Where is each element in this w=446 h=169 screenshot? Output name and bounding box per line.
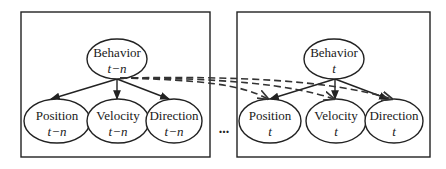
node-position-t-minus-n: Position t−n (24, 99, 90, 143)
edge-behavior-direction-right (335, 79, 388, 99)
dynamic-bayesian-network-diagram: Behavior t−n Position t−n Velocity t−n D… (0, 0, 446, 169)
node-behavior-t-minus-n: Behavior t−n (87, 39, 147, 79)
edge-behavior-direction-left (117, 79, 169, 99)
node-label: Behavior (310, 45, 358, 60)
node-time: t (392, 124, 396, 139)
node-time: t−n (109, 124, 128, 139)
node-position-t: Position t (239, 99, 301, 143)
node-time: t (334, 124, 338, 139)
node-behavior-t: Behavior t (304, 39, 364, 79)
node-label: Direction (369, 108, 419, 123)
node-label: Behavior (93, 45, 141, 60)
node-time: t (268, 124, 272, 139)
node-label: Velocity (314, 108, 358, 123)
node-label: Velocity (96, 108, 140, 123)
node-direction-t-minus-n: Direction t−n (146, 99, 202, 143)
node-label: Position (36, 108, 79, 123)
node-label: Direction (149, 108, 199, 123)
node-time: t−n (48, 124, 67, 139)
time-slice-t-minus-n: Behavior t−n Position t−n Velocity t−n D… (21, 12, 210, 157)
node-velocity-t-minus-n: Velocity t−n (87, 99, 149, 143)
edge-behavior-position-left (51, 79, 117, 99)
node-direction-t: Direction t (365, 99, 423, 143)
node-time: t−n (108, 61, 127, 76)
node-velocity-t: Velocity t (306, 99, 366, 143)
node-label: Position (249, 108, 292, 123)
node-time: t−n (165, 124, 184, 139)
ellipsis-separator: ... (219, 121, 230, 136)
node-time: t (332, 61, 336, 76)
